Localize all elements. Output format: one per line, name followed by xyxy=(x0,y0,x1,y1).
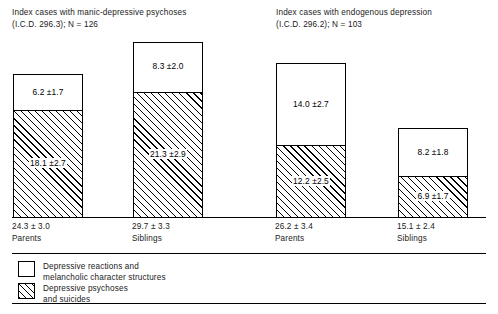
bar-value-label-psychoses: 6.9 ±1.7 xyxy=(398,191,468,201)
bar-value-label-psychoses: 21.3 ±2.9 xyxy=(133,149,203,159)
legend-label-reactions: Depressive reactions and melancholic cha… xyxy=(43,261,166,284)
bar-value-label-psychoses: 18.1 ±2.7 xyxy=(13,158,83,168)
category-label-manic-depressive-parents: 24.3 ± 3.0 Parents xyxy=(12,221,50,244)
category-label-endogenous-depression-siblings: 15.1 ± 2.4 Siblings xyxy=(397,221,435,244)
bar-value-label-psychoses: 12.2 ±2.5 xyxy=(276,176,346,186)
bar-value-label-reactions: 14.0 ±2.7 xyxy=(276,99,346,109)
bar-value-label-reactions: 8.2 ±1.8 xyxy=(398,147,468,157)
bar-value-label-reactions: 8.3 ±2.0 xyxy=(133,61,203,71)
legend-divider-top xyxy=(12,253,486,254)
category-label-manic-depressive-siblings: 29.7 ± 3.3 Siblings xyxy=(132,221,170,244)
legend-swatch-hatched xyxy=(18,283,35,299)
legend-divider-bottom xyxy=(12,303,486,304)
legend-swatch-white xyxy=(18,261,35,277)
x-axis-baseline xyxy=(12,217,486,218)
bar-value-label-reactions: 6.2 ±1.7 xyxy=(13,87,83,97)
bar-endogenous-depression-parents xyxy=(276,63,346,217)
category-label-endogenous-depression-parents: 26.2 ± 3.4 Parents xyxy=(275,221,313,244)
legend-item-reactions: Depressive reactions and melancholic cha… xyxy=(18,261,166,284)
chart-figure: Index cases with manic-depressive psycho… xyxy=(0,0,498,314)
bar-endogenous-depression-siblings xyxy=(398,128,468,217)
